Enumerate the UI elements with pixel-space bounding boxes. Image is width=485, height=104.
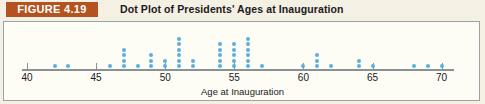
data-dot [412,64,416,68]
data-dot [191,64,195,68]
x-axis-tick-label: 60 [298,72,309,84]
data-dot [232,64,236,68]
dot-plot: 40455055606570 Age at Inauguration [4,22,481,102]
x-axis-tick-label: 55 [229,72,240,84]
data-dot [122,53,126,57]
data-dot [66,64,70,68]
data-dot [301,64,305,68]
data-dot [218,42,222,46]
data-dot [315,59,319,63]
data-dot [177,37,181,41]
data-dot [246,37,250,41]
data-dot [357,59,361,63]
figure-header: FIGURE 4.19 Dot Plot of Presidents' Ages… [0,0,485,20]
data-dot [177,42,181,46]
data-dot [177,48,181,52]
data-dot [149,53,153,57]
data-dot [218,59,222,63]
x-axis-tick-label: 70 [436,72,447,84]
data-dot [163,59,167,63]
data-dot [177,53,181,57]
data-dot [315,53,319,57]
figure-number-label: FIGURE 4.19 [17,4,86,15]
data-dot [136,64,140,68]
plot-frame: 40455055606570 Age at Inauguration [3,21,480,101]
figure-number-badge: FIGURE 4.19 [6,2,98,17]
x-axis-tick-label: 65 [367,72,378,84]
x-axis-line [22,69,454,71]
x-axis-tick-label: 45 [91,72,102,84]
data-dot [177,59,181,63]
data-dot [371,64,375,68]
data-dot [53,64,57,68]
data-dot [177,64,181,68]
data-dot [246,59,250,63]
data-dot [246,53,250,57]
data-dot [122,64,126,68]
data-dot [232,42,236,46]
data-dot [108,64,112,68]
data-dot [218,64,222,68]
x-axis-title: Age at Inauguration [4,86,481,97]
data-dot [122,48,126,52]
data-dot [315,64,319,68]
data-dot [232,59,236,63]
figure-panel: FIGURE 4.19 Dot Plot of Presidents' Ages… [0,0,485,104]
data-dot [149,59,153,63]
data-dot [149,64,153,68]
data-dot [426,64,430,68]
data-dot [232,48,236,52]
data-dot [246,64,250,68]
data-dot [246,42,250,46]
data-dot [122,59,126,63]
data-dot [163,64,167,68]
data-dot [218,53,222,57]
data-dot [218,48,222,52]
figure-title: Dot Plot of Presidents' Ages at Inaugura… [120,3,344,16]
x-axis-tick [27,63,28,70]
data-dot [232,53,236,57]
data-dot [357,64,361,68]
x-axis-tick-label: 50 [160,72,171,84]
data-dot [440,64,444,68]
data-dot [329,64,333,68]
x-axis-tick-label: 40 [21,72,32,84]
data-dot [260,64,264,68]
x-axis-tick [96,63,97,70]
data-dot [191,59,195,63]
data-dot [246,48,250,52]
